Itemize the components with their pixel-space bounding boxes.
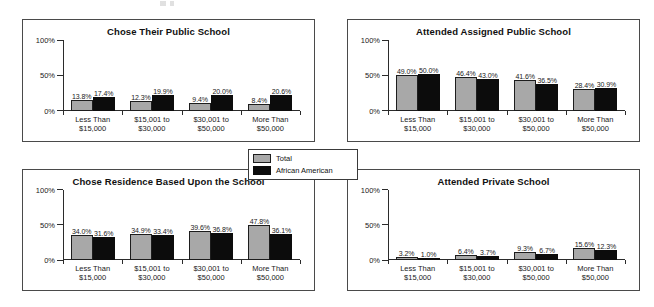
x-axis-category-label: Less Than$15,000 [400, 264, 435, 282]
y-axis-tick-label: 100% [36, 185, 55, 194]
category-label-line1: $15,001 to [459, 264, 494, 273]
bar-group: 49.0%50.0%Less Than$15,000 [388, 40, 447, 111]
bar-value-label: 8.4% [252, 97, 268, 104]
category-label-line2: $50,000 [577, 124, 613, 133]
bar-value-label: 20.6% [272, 88, 291, 95]
category-label-line1: Less Than [400, 115, 435, 124]
bar-pair: 12.3%19.9% [130, 40, 174, 111]
x-axis-category-label: $30,001 to$50,000 [193, 264, 228, 282]
bar-african-american: 12.3% [595, 250, 617, 260]
bar-group: 28.4%30.9%More Than$50,000 [566, 40, 625, 111]
bar-african-american: 36.5% [536, 84, 558, 111]
y-axis-tick-label: 50% [40, 220, 55, 229]
category-label-line2: $50,000 [518, 124, 553, 133]
plot-area: 0%50%100%49.0%50.0%Less Than$15,00046.4%… [388, 40, 625, 111]
panel-chose-their-public-school: Chose Their Public School 0%50%100%13.8%… [0, 0, 327, 154]
panel-border: Attended Private School 0%50%100%3.2%1.0… [347, 169, 640, 292]
bar-value-label: 46.4% [456, 70, 475, 77]
legend-swatch-african-american [253, 166, 271, 175]
category-label-line2: $50,000 [518, 273, 553, 282]
y-axis-tick-label: 0% [44, 256, 55, 265]
plot-area: 0%50%100%13.8%17.4%Less Than$15,00012.3%… [63, 40, 300, 111]
bar-value-label: 17.4% [94, 90, 113, 97]
category-label-line2: $30,000 [134, 124, 169, 133]
category-label-line1: $30,001 to [518, 115, 553, 124]
bar-pair: 39.6%36.8% [189, 190, 233, 261]
category-label-line2: $30,000 [459, 273, 494, 282]
bar-group: 34.0%31.6%Less Than$15,000 [63, 190, 122, 261]
bar-total: 15.6% [573, 248, 595, 260]
bar-pair: 3.2%1.0% [396, 190, 440, 261]
x-axis-tick [507, 260, 508, 264]
bar-value-label: 12.3% [597, 243, 616, 250]
category-label-line1: $15,001 to [459, 115, 494, 124]
bar-pair: 28.4%30.9% [573, 40, 617, 111]
category-label-line1: More Than [252, 264, 288, 273]
x-axis-category-label: $15,001 to$30,000 [459, 115, 494, 133]
y-axis-tick-label: 0% [44, 106, 55, 115]
bar-group: 9.4%20.0%$30,001 to$50,000 [182, 40, 241, 111]
bar-total: 9.3% [514, 252, 536, 260]
bar-value-label: 36.5% [537, 77, 556, 84]
y-axis-tick-label: 100% [361, 36, 380, 45]
x-axis-category-label: More Than$50,000 [252, 115, 288, 133]
x-axis-tick [300, 260, 301, 264]
category-label-line2: $15,000 [400, 273, 435, 282]
bar-value-label: 39.6% [190, 224, 209, 231]
y-axis-tick-label: 0% [369, 256, 380, 265]
bar-value-label: 50.0% [419, 67, 438, 74]
bar-african-american: 19.9% [152, 95, 174, 110]
bar-african-american: 33.4% [152, 235, 174, 260]
y-axis-tick-label: 0% [369, 106, 380, 115]
bar-value-label: 43.0% [478, 72, 497, 79]
x-axis-tick [182, 260, 183, 264]
bar-african-american: 3.7% [477, 256, 499, 260]
panel-inner: Attended Private School 0%50%100%3.2%1.0… [348, 170, 639, 291]
bar-value-label: 36.1% [272, 227, 291, 234]
bar-groups: 49.0%50.0%Less Than$15,00046.4%43.0%$15,… [388, 40, 625, 111]
bar-group: 6.4%3.7%$15,001 to$30,000 [447, 190, 506, 261]
category-label-line1: $30,001 to [193, 115, 228, 124]
category-label-line2: $50,000 [252, 124, 288, 133]
category-label-line1: Less Than [75, 115, 110, 124]
x-axis-tick [241, 260, 242, 264]
y-axis-tick-label: 100% [36, 36, 55, 45]
y-axis-tick-label: 50% [365, 71, 380, 80]
bar-african-american: 36.8% [211, 233, 233, 260]
bar-groups: 3.2%1.0%Less Than$15,0006.4%3.7%$15,001 … [388, 190, 625, 261]
bar-african-american: 36.1% [270, 234, 292, 260]
category-label-line2: $50,000 [193, 124, 228, 133]
bar-value-label: 33.4% [153, 228, 172, 235]
category-label-line2: $30,000 [134, 273, 169, 282]
x-axis-tick [182, 111, 183, 115]
bar-value-label: 13.8% [72, 93, 91, 100]
legend-label-total: Total [276, 154, 292, 163]
category-label-line2: $50,000 [193, 273, 228, 282]
bar-value-label: 20.0% [212, 88, 231, 95]
x-axis-tick [300, 111, 301, 115]
category-label-line1: Less Than [75, 264, 110, 273]
category-label-line2: $15,000 [75, 273, 110, 282]
category-label-line1: More Than [577, 115, 613, 124]
x-axis-tick [447, 111, 448, 115]
bar-pair: 34.0%31.6% [71, 190, 115, 261]
category-label-line2: $50,000 [577, 273, 613, 282]
bar-group: 41.6%36.5%$30,001 to$50,000 [507, 40, 566, 111]
bar-group: 15.6%12.3%More Than$50,000 [566, 190, 625, 261]
category-label-line1: Less Than [400, 264, 435, 273]
category-label-line2: $50,000 [252, 273, 288, 282]
bar-pair: 6.4%3.7% [455, 190, 499, 261]
chart-title: Chose Their Public School [23, 26, 314, 37]
bar-value-label: 9.3% [517, 245, 533, 252]
legend-item-african-american: African American [253, 164, 353, 176]
bar-pair: 13.8%17.4% [71, 40, 115, 111]
bar-african-american: 17.4% [93, 97, 115, 110]
x-axis-category-label: Less Than$15,000 [75, 115, 110, 133]
bar-value-label: 49.0% [397, 68, 416, 75]
panel-border: Chose Their Public School 0%50%100%13.8%… [22, 19, 315, 142]
cropped-title-artifact [160, 1, 190, 6]
bar-group: 13.8%17.4%Less Than$15,000 [63, 40, 122, 111]
bar-total: 34.9% [130, 234, 152, 260]
bar-value-label: 36.8% [212, 226, 231, 233]
bar-total: 46.4% [455, 77, 477, 111]
